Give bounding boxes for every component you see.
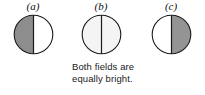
panel-a-disc bbox=[13, 14, 54, 55]
split-disc-a-svg bbox=[13, 14, 54, 55]
panel-b: (b) bbox=[70, 0, 132, 60]
disc-c-right-half bbox=[172, 15, 191, 54]
panel-a: (a) bbox=[2, 0, 64, 60]
brightness-comparison-figure: (a) (b) (c) bbox=[0, 0, 205, 95]
split-disc-c-svg bbox=[151, 14, 192, 55]
panel-c-label: (c) bbox=[140, 0, 202, 13]
split-disc-b-svg bbox=[81, 14, 122, 55]
disc-a-left-half bbox=[14, 15, 33, 54]
disc-c-left-half bbox=[152, 15, 171, 54]
disc-b-left-half bbox=[82, 15, 101, 54]
panel-c-disc bbox=[151, 14, 192, 55]
caption-line-1: Both fields are bbox=[72, 61, 150, 73]
disc-b-right-half bbox=[102, 15, 121, 54]
panel-b-label: (b) bbox=[70, 0, 132, 13]
figure-caption: Both fields are equally bright. bbox=[72, 61, 150, 84]
panel-c: (c) bbox=[140, 0, 202, 60]
disc-a-right-half bbox=[34, 15, 53, 54]
panel-a-label: (a) bbox=[2, 0, 64, 13]
panel-b-disc bbox=[81, 14, 122, 55]
caption-line-2: equally bright. bbox=[72, 73, 150, 85]
